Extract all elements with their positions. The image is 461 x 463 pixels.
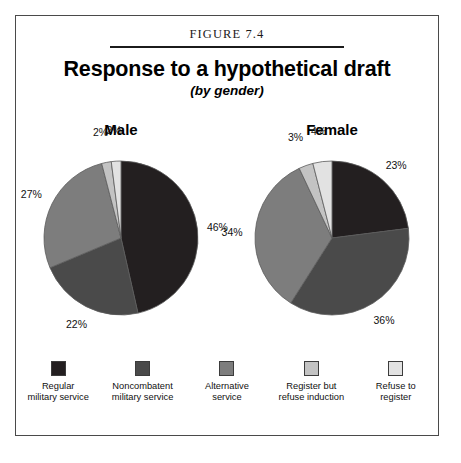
pie-panel-female: Female 23%36%34%3%4% (227, 120, 437, 352)
legend-swatch (219, 361, 234, 376)
pie-slice (332, 161, 408, 238)
legend-swatch (304, 361, 319, 376)
page-title: Response to a hypothetical draft (16, 57, 438, 82)
pie-panel-male: Male 46%22%27%2%2% (16, 120, 226, 352)
legend-label: Refuse toregister (376, 381, 416, 403)
legend-label: Register butrefuse induction (279, 381, 345, 403)
pie-slice-label: 27% (21, 188, 42, 200)
chart-subtitle: (by gender) (16, 83, 438, 98)
legend-item[interactable]: Alternativeservice (185, 361, 269, 403)
legend-label: Alternativeservice (205, 381, 249, 403)
legend-label: Noncombatentmilitary service (112, 381, 173, 403)
pie-slice-label: 2% (107, 124, 122, 136)
figure-number: FIGURE 7.4 (16, 27, 438, 42)
legend-item[interactable]: Regularmilitary service (16, 361, 100, 403)
legend-swatch (388, 361, 403, 376)
pie-slice-label: 23% (386, 159, 407, 171)
pie-slice-label: 4% (311, 125, 326, 137)
pie-svg (227, 140, 437, 350)
pie-chart-panels: Male 46%22%27%2%2% Female 23%36%34%3%4% (16, 120, 438, 352)
figure-frame: FIGURE 7.4 Response to a hypothetical dr… (15, 15, 439, 436)
pie-slice-label: 34% (222, 226, 243, 238)
legend-item[interactable]: Noncombatentmilitary service (101, 361, 185, 403)
legend-item[interactable]: Refuse toregister (354, 361, 438, 403)
legend-swatch (51, 361, 66, 376)
pie-slice-label: 36% (373, 314, 394, 326)
pie-slice-label: 3% (288, 131, 303, 143)
legend-swatch (135, 361, 150, 376)
pie-chart-female: 23%36%34%3%4% (227, 140, 437, 350)
pie-chart-male: 46%22%27%2%2% (16, 140, 226, 350)
panel-heading-female: Female (227, 120, 437, 140)
legend-item[interactable]: Register butrefuse induction (269, 361, 353, 403)
pie-svg (16, 140, 226, 350)
pie-slice-label: 22% (66, 318, 87, 330)
chart-legend: Regularmilitary serviceNoncombatentmilit… (16, 361, 438, 427)
legend-label: Regularmilitary service (27, 381, 88, 403)
title-divider (110, 46, 344, 48)
